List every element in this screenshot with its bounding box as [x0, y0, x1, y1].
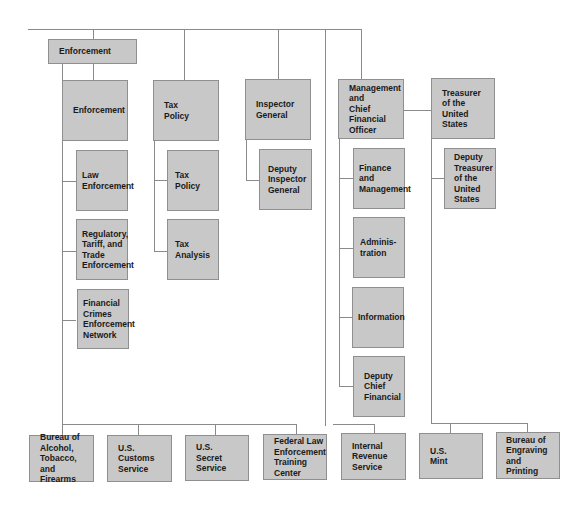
connector [339, 386, 353, 387]
label: Finance and Management [359, 163, 411, 195]
connector [278, 29, 279, 80]
box-deputy-cfo: Deputy Chief Financial [353, 356, 405, 417]
connector [62, 424, 297, 425]
connector [138, 424, 139, 435]
box-fincen: Financial Crimes Enforcement Network [77, 289, 129, 349]
connector [184, 29, 185, 80]
label: Deputy Treasurer of the United States [454, 152, 493, 205]
label: Tax Policy [175, 170, 200, 191]
box-mint: U.S. Mint [419, 433, 483, 479]
label: Law Enforcement [82, 170, 134, 191]
box-enforcement-group: Enforcement [48, 39, 137, 64]
label: Deputy Inspector General [268, 164, 306, 196]
top-connector [28, 29, 362, 30]
connector [339, 178, 353, 179]
label: Adminis- tration [360, 237, 396, 258]
label: Internal Revenue Service [352, 441, 387, 473]
connector [246, 180, 260, 181]
box-atf: Bureau of Alcohol, Tobacco, and Firearms [29, 435, 94, 482]
connector [62, 320, 76, 321]
connector [154, 180, 168, 181]
box-customs-service: U.S. Customs Service [107, 435, 172, 482]
box-administration: Adminis- tration [353, 217, 405, 278]
label: U.S. Mint [430, 446, 447, 467]
label: Bureau of Engraving and Printing [506, 435, 548, 477]
label: Tax Analysis [175, 239, 210, 260]
label: Bureau of Alcohol, Tobacco, and Firearms [40, 432, 93, 485]
label: U.S. Customs Service [118, 443, 154, 475]
connector [62, 251, 76, 252]
box-tax-policy-office: Tax Policy [167, 150, 219, 211]
connector [215, 424, 216, 435]
label: Inspector General [256, 99, 294, 120]
connector [93, 63, 94, 81]
label: U.S. Secret Service [196, 442, 226, 474]
connector [403, 110, 433, 111]
box-inspector-general: Inspector General [245, 79, 311, 140]
box-fletc: Federal Law Enforcement Training Center [263, 434, 327, 480]
label: Federal Law Enforcement Training Center [274, 436, 326, 478]
connector [333, 424, 375, 425]
label: Enforcement [59, 46, 111, 57]
box-management-cfo: Management and Chief Financial Officer [338, 79, 404, 139]
box-tax-policy: Tax Policy [153, 80, 219, 141]
connector [339, 248, 353, 249]
connector [246, 140, 247, 180]
box-tax-analysis: Tax Analysis [167, 219, 219, 280]
label: Management and Chief Financial Officer [349, 83, 401, 136]
label: Treasurer of the United States [442, 88, 481, 130]
label: Financial Crimes Enforcement Network [83, 298, 135, 340]
connector [325, 29, 326, 426]
label: Regulatory, Tariff, and Trade Enforcemen… [82, 229, 134, 271]
box-enforcement: Enforcement [62, 80, 128, 141]
label: Tax Policy [164, 100, 189, 121]
box-regulatory-enforcement: Regulatory, Tariff, and Trade Enforcemen… [76, 219, 128, 280]
box-irs: Internal Revenue Service [341, 433, 406, 480]
connector [361, 29, 362, 80]
label: Enforcement [73, 105, 125, 116]
connector [154, 140, 155, 252]
box-deputy-inspector-general: Deputy Inspector General [259, 149, 312, 210]
box-deputy-treasurer: Deputy Treasurer of the United States [444, 148, 496, 209]
connector [431, 138, 432, 424]
connector [339, 317, 353, 318]
connector [154, 251, 168, 252]
box-information: Information [352, 287, 404, 348]
box-treasurer: Treasurer of the United States [431, 78, 495, 139]
connector [431, 423, 528, 424]
connector [431, 178, 445, 179]
connector [339, 138, 340, 386]
box-secret-service: U.S. Secret Service [185, 435, 249, 481]
connector [62, 181, 76, 182]
box-finance-management: Finance and Management [353, 148, 405, 209]
box-law-enforcement: Law Enforcement [76, 150, 128, 211]
label: Information [358, 312, 405, 323]
label: Deputy Chief Financial [364, 371, 401, 403]
box-engraving-printing: Bureau of Engraving and Printing [496, 432, 560, 479]
